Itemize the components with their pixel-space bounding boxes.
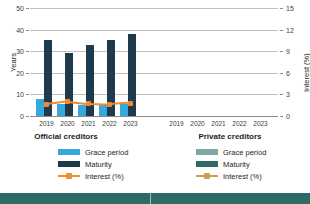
right-tick-mark bbox=[280, 51, 283, 52]
legend-label-maturity-official: Maturity bbox=[85, 160, 112, 169]
legend-label-interest-private: Interest (%) bbox=[223, 172, 262, 181]
left-tick-label: 20 bbox=[2, 70, 24, 77]
interest-data-point bbox=[65, 99, 70, 104]
left-tick-mark bbox=[26, 30, 29, 31]
interest-data-point bbox=[86, 101, 91, 106]
interest-data-point bbox=[44, 102, 49, 107]
x-axis-label: 2022 bbox=[99, 120, 120, 127]
right-tick-label: 12 bbox=[286, 27, 310, 34]
plot-area bbox=[30, 8, 278, 116]
x-axis-label: 2020 bbox=[57, 120, 78, 127]
x-axis-label: 2020 bbox=[187, 120, 208, 127]
interest-line-marker-icon bbox=[58, 173, 80, 179]
bar-group bbox=[99, 8, 120, 116]
legend-item-interest-private: Interest (%) bbox=[196, 170, 266, 182]
x-axis-label: 2019 bbox=[36, 120, 57, 127]
legend-label-interest-official: Interest (%) bbox=[85, 172, 124, 181]
right-tick-label: 15 bbox=[286, 5, 310, 12]
bar-group bbox=[229, 8, 250, 116]
left-tick-label: 30 bbox=[2, 48, 24, 55]
grace-period-swatch-private-icon bbox=[196, 149, 218, 155]
bar-group bbox=[250, 8, 271, 116]
bar-maturity bbox=[65, 53, 73, 116]
chart-figure: Years Interest (%) 50403020100 15129630 … bbox=[0, 0, 310, 204]
left-tick-mark bbox=[26, 8, 29, 9]
interest-data-point bbox=[107, 102, 112, 107]
bar-group bbox=[78, 8, 99, 116]
axis-baseline bbox=[30, 116, 278, 117]
right-tick-mark bbox=[280, 116, 283, 117]
right-tick-mark bbox=[280, 94, 283, 95]
right-tick-label: 9 bbox=[286, 48, 310, 55]
legend-official: Grace period Maturity Interest (%) bbox=[58, 146, 128, 182]
panel-title-official: Official creditors bbox=[0, 132, 136, 141]
footer-bar bbox=[0, 193, 310, 204]
right-tick-mark bbox=[280, 30, 283, 31]
legend-label-grace-official: Grace period bbox=[85, 148, 128, 157]
panel-title-private: Private creditors bbox=[160, 132, 300, 141]
interest-line-marker-private-icon bbox=[196, 173, 218, 179]
panel-official-creditors bbox=[30, 8, 148, 116]
right-tick-mark bbox=[280, 73, 283, 74]
right-tick-label: 0 bbox=[286, 113, 310, 120]
right-tick-label: 3 bbox=[286, 91, 310, 98]
legend-item-grace-official: Grace period bbox=[58, 146, 128, 158]
grace-period-swatch-icon bbox=[58, 149, 80, 155]
interest-data-point bbox=[128, 101, 133, 106]
left-tick-mark bbox=[26, 51, 29, 52]
bar-group bbox=[36, 8, 57, 116]
left-tick-mark bbox=[26, 116, 29, 117]
x-axis-label: 2021 bbox=[78, 120, 99, 127]
x-axis-label: 2021 bbox=[208, 120, 229, 127]
bar-grace-period bbox=[78, 105, 86, 116]
legend-label-maturity-private: Maturity bbox=[223, 160, 250, 169]
legend-item-interest-official: Interest (%) bbox=[58, 170, 128, 182]
left-tick-label: 10 bbox=[2, 91, 24, 98]
x-axis-label: 2022 bbox=[229, 120, 250, 127]
bar-group bbox=[120, 8, 141, 116]
panel-private-creditors bbox=[160, 8, 278, 116]
x-axis-label: 2023 bbox=[250, 120, 271, 127]
bar-grace-period bbox=[120, 104, 128, 116]
legend-item-maturity-private: Maturity bbox=[196, 158, 266, 170]
maturity-swatch-private-icon bbox=[196, 161, 218, 167]
bar-grace-period bbox=[57, 104, 65, 116]
footer-divider bbox=[150, 193, 151, 204]
bar-group bbox=[187, 8, 208, 116]
left-tick-label: 40 bbox=[2, 27, 24, 34]
left-tick-mark bbox=[26, 94, 29, 95]
left-tick-mark bbox=[26, 73, 29, 74]
x-axis-label: 2019 bbox=[166, 120, 187, 127]
left-tick-label: 50 bbox=[2, 5, 24, 12]
right-tick-label: 6 bbox=[286, 70, 310, 77]
left-tick-label: 0 bbox=[2, 113, 24, 120]
legend-label-grace-private: Grace period bbox=[223, 148, 266, 157]
bar-group bbox=[208, 8, 229, 116]
x-axis-label: 2023 bbox=[120, 120, 141, 127]
bar-grace-period bbox=[99, 104, 107, 116]
bar-group bbox=[166, 8, 187, 116]
bar-grace-period bbox=[36, 99, 44, 116]
legend-item-maturity-official: Maturity bbox=[58, 158, 128, 170]
legend-private: Grace period Maturity Interest (%) bbox=[196, 146, 266, 182]
right-tick-mark bbox=[280, 8, 283, 9]
legend-item-grace-private: Grace period bbox=[196, 146, 266, 158]
maturity-swatch-icon bbox=[58, 161, 80, 167]
